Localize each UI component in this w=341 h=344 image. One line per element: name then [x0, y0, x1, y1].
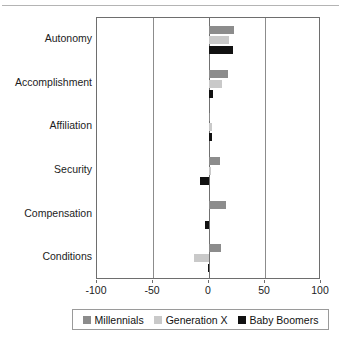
legend-label: Baby Boomers	[250, 314, 319, 326]
x-tick-label-100: 100	[311, 284, 329, 296]
bar-generation-x-autonomy	[209, 36, 229, 44]
bar-generation-x-conditions	[194, 254, 209, 262]
legend-swatch-icon	[83, 316, 91, 324]
x-tick-mark-100	[320, 280, 321, 283]
bar-baby-boomers-autonomy	[209, 46, 233, 54]
plot-area	[96, 17, 320, 279]
chart-legend: MillennialsGeneration XBaby Boomers	[72, 309, 329, 330]
chart-figure: AutonomyAccomplishmentAffiliationSecurit…	[0, 0, 341, 344]
x-tick-mark-50	[264, 280, 265, 283]
legend-label: Millennials	[95, 314, 144, 326]
bar-baby-boomers-security	[200, 177, 209, 185]
legend-swatch-icon	[238, 316, 246, 324]
y-tick-label-compensation: Compensation	[0, 208, 92, 219]
legend-label: Generation X	[166, 314, 228, 326]
y-tick-label-conditions: Conditions	[0, 251, 92, 262]
x-tick-mark--100	[96, 280, 97, 283]
bar-baby-boomers-conditions	[208, 264, 209, 272]
x-tick-label--50: -50	[144, 284, 159, 296]
bar-generation-x-affiliation	[209, 123, 212, 131]
x-tick-mark-0	[208, 280, 209, 283]
y-tick-label-affiliation: Affiliation	[0, 120, 92, 131]
top-divider-rule	[2, 5, 339, 6]
legend-swatch-icon	[154, 316, 162, 324]
bar-baby-boomers-accomplishment	[209, 90, 213, 98]
bar-millennials-compensation	[209, 201, 226, 209]
x-tick-mark--50	[152, 280, 153, 283]
legend-item-baby-boomers[interactable]: Baby Boomers	[238, 314, 319, 326]
x-tick-label-50: 50	[258, 284, 270, 296]
bar-baby-boomers-compensation	[205, 221, 209, 229]
bar-millennials-accomplishment	[209, 70, 228, 78]
legend-item-millennials[interactable]: Millennials	[83, 314, 144, 326]
bar-millennials-conditions	[209, 244, 221, 252]
bar-generation-x-accomplishment	[209, 80, 222, 88]
bar-millennials-affiliation	[209, 113, 210, 121]
y-tick-label-accomplishment: Accomplishment	[0, 77, 92, 88]
x-tick-label-0: 0	[205, 284, 211, 296]
bar-millennials-security	[209, 157, 220, 165]
bar-generation-x-security	[209, 167, 211, 175]
gridline--50	[153, 18, 154, 278]
legend-item-generation-x[interactable]: Generation X	[154, 314, 228, 326]
y-tick-label-security: Security	[0, 164, 92, 175]
zero-line	[209, 18, 210, 278]
x-axis: -100-50050100	[96, 280, 320, 298]
x-tick-label--100: -100	[85, 284, 106, 296]
bar-millennials-autonomy	[209, 26, 234, 34]
bar-baby-boomers-affiliation	[209, 133, 212, 141]
y-tick-label-autonomy: Autonomy	[0, 33, 92, 44]
y-axis-category-labels: AutonomyAccomplishmentAffiliationSecurit…	[0, 17, 92, 279]
gridline-50	[265, 18, 266, 278]
